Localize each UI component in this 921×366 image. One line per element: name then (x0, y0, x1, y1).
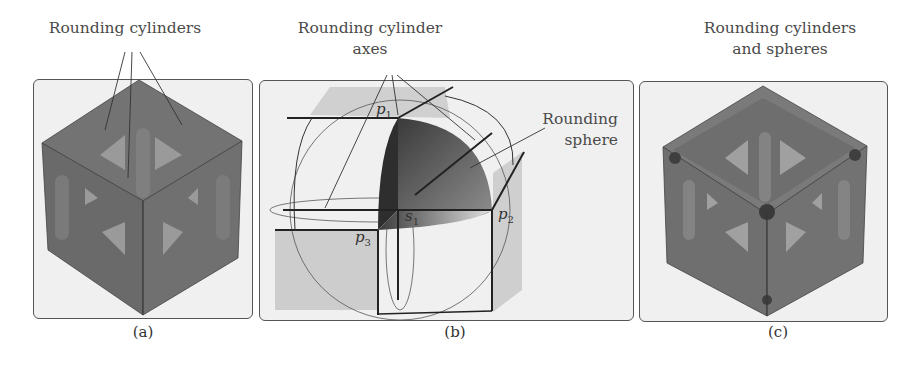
panel-c-drawing (0, 0, 921, 366)
rounding-sphere-corner (849, 149, 861, 161)
panel-c-caption: (c) (758, 323, 798, 341)
rounding-sphere-corner (669, 152, 681, 164)
cylinder-vertical-left (683, 180, 695, 240)
cylinder-vertical-right (838, 180, 850, 240)
cylinder-vertical-center (759, 132, 771, 202)
